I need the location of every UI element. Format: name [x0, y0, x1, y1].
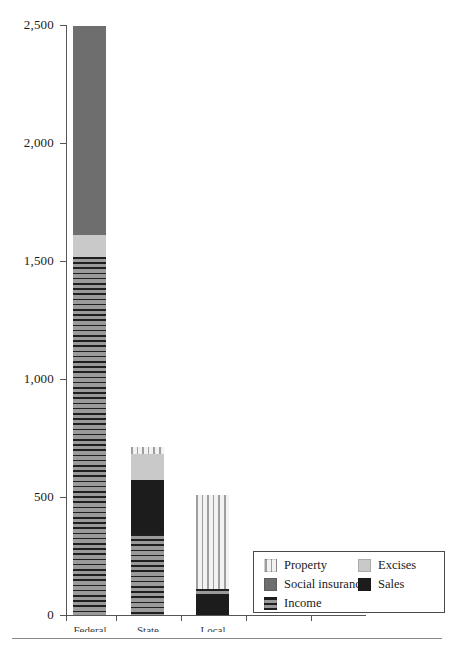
legend-label-income: Income	[284, 596, 321, 611]
sales-swatch	[358, 578, 371, 591]
x-tick-1	[116, 616, 117, 621]
y-tick-label-500: 500	[0, 489, 54, 505]
social-insurance-swatch	[264, 578, 277, 591]
y-tick-label-2000: 2,000	[0, 135, 54, 151]
y-tick-label-1500: 1,500	[0, 253, 54, 269]
bar-federal-segment-social-insurance	[73, 26, 106, 235]
stacked-bar-chart: 2,500 2,000 1,500 1,000 500 0 Federal St…	[0, 0, 454, 648]
x-tick-2	[181, 616, 182, 621]
footer-divider	[12, 638, 442, 639]
x-tick-right	[311, 616, 312, 621]
legend-item-excises: Excises	[358, 558, 416, 573]
income-swatch	[264, 597, 277, 610]
y-tick-500	[60, 497, 67, 498]
legend-item-property: Property	[264, 558, 327, 573]
bar-federal	[73, 26, 106, 615]
bar-federal-segment-excises	[73, 235, 106, 257]
chart-legend: Property Excises Social insurance Sales …	[253, 551, 445, 613]
y-tick-1500	[60, 261, 67, 262]
bar-state-segment-property	[131, 447, 164, 454]
y-tick-1000	[60, 379, 67, 380]
bar-state-segment-sales	[131, 480, 164, 534]
y-tick-2500	[60, 25, 67, 26]
bar-local-segment-sales	[196, 594, 229, 615]
x-axis-line	[66, 615, 366, 616]
y-tick-2000	[60, 143, 67, 144]
legend-item-income: Income	[264, 596, 321, 611]
legend-label-social-insurance: Social insurance	[284, 577, 366, 592]
x-tick-left	[66, 616, 67, 621]
bar-federal-segment-income	[73, 257, 106, 615]
bar-local	[196, 495, 229, 615]
y-tick-label-1000: 1,000	[0, 371, 54, 387]
legend-item-sales: Sales	[358, 577, 404, 592]
bar-state-segment-income	[131, 534, 164, 615]
excises-swatch	[358, 559, 371, 572]
legend-label-sales: Sales	[378, 577, 404, 592]
bar-state-segment-excises	[131, 454, 164, 480]
y-tick-label-0: 0	[0, 607, 54, 623]
y-axis-line	[66, 25, 67, 616]
legend-label-property: Property	[284, 558, 327, 573]
legend-label-excises: Excises	[378, 558, 416, 573]
legend-item-social-insurance: Social insurance	[264, 577, 366, 592]
bar-state	[131, 447, 164, 615]
property-swatch	[264, 559, 277, 572]
x-label-state: State	[116, 624, 180, 632]
y-tick-label-2500: 2,500	[0, 17, 54, 33]
x-label-local: Local	[181, 624, 245, 632]
x-tick-3	[246, 616, 247, 621]
bar-local-segment-property	[196, 495, 229, 589]
x-label-federal: Federal	[58, 624, 122, 632]
